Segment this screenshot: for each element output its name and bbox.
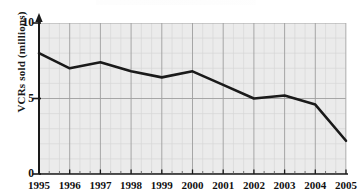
y-axis-arrow-icon xyxy=(35,13,42,22)
x-tick-label-1997: 1997 xyxy=(83,179,117,191)
y-tick-label: 10 xyxy=(12,16,34,28)
x-tick-label-1996: 1996 xyxy=(53,179,87,191)
x-tick-label-2005: 2005 xyxy=(329,179,362,191)
x-tick-label-2002: 2002 xyxy=(237,179,271,191)
x-tick-label-1995: 1995 xyxy=(22,179,56,191)
x-tick-label-1998: 1998 xyxy=(114,179,148,191)
cropped-title-remnant xyxy=(96,0,256,5)
x-tick-label-2001: 2001 xyxy=(206,179,240,191)
x-axis-tick-labels: 1995199619971998199920002001200220032004… xyxy=(0,176,352,191)
x-tick-label-2003: 2003 xyxy=(268,179,302,191)
y-tick-label: 5 xyxy=(12,92,34,104)
x-tick-label-2004: 2004 xyxy=(298,179,332,191)
x-tick-label-1999: 1999 xyxy=(145,179,179,191)
x-tick-label-2000: 2000 xyxy=(176,179,210,191)
